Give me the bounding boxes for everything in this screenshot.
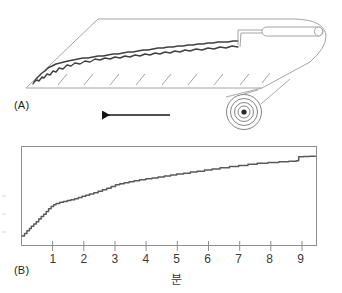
cumulative-curve: [22, 156, 315, 236]
cylinder-handle: [262, 27, 323, 36]
cropped-edge-marks: [2, 196, 6, 232]
x-tick-label: 9: [297, 252, 304, 266]
x-tick-label: 4: [142, 252, 149, 266]
x-tick-label: 5: [173, 252, 180, 266]
panel-a-label: (A): [14, 99, 29, 111]
figure-root: (A) (B) 123456789 분: [0, 0, 342, 293]
panel-a-apparatus-drawing: [26, 19, 326, 130]
spiral-roll: [226, 79, 290, 130]
panel-b-chart: [2, 147, 317, 252]
plot-frame: [22, 147, 317, 246]
handle-rod: [238, 30, 262, 47]
x-tick-label: 2: [81, 252, 88, 266]
x-tick-label: 1: [50, 252, 57, 266]
x-tick-label: 8: [266, 252, 273, 266]
mat-hatch-marks: [58, 73, 270, 85]
x-axis-title: 분: [171, 270, 182, 287]
x-tick-label: 3: [111, 252, 118, 266]
x-tick-label: 6: [204, 252, 211, 266]
x-tick-label: 7: [235, 252, 242, 266]
panel-b-label: (B): [14, 264, 29, 276]
figure-canvas: [0, 0, 342, 293]
